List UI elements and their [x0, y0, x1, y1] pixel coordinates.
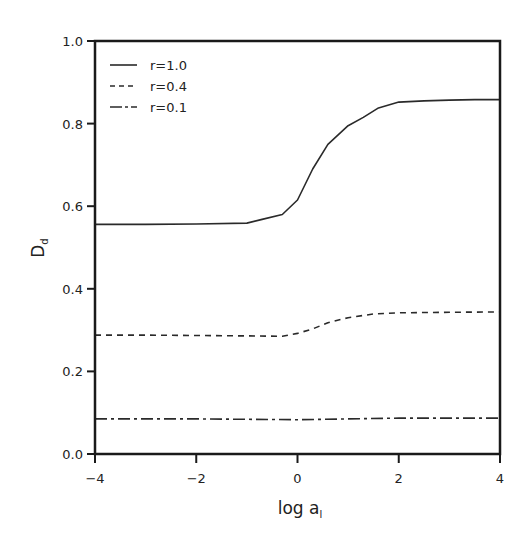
legend-label: r=1.0: [150, 58, 187, 73]
y-axis-label: D: [28, 245, 48, 258]
x-tick-label: 0: [293, 471, 301, 486]
y-axis-subscript: d: [39, 238, 50, 244]
legend: r=1.0r=0.4r=0.1: [110, 58, 187, 115]
y-axis-title: Dd: [28, 238, 50, 257]
y-axis-ticks: 0.00.20.40.60.81.0: [62, 34, 95, 462]
svg-text:Dd: Dd: [28, 238, 50, 257]
x-axis-subscript: l: [319, 509, 322, 520]
series-line-r-0-1: [95, 418, 500, 420]
y-tick-label: 0.0: [62, 447, 83, 462]
x-tick-label: −2: [187, 471, 206, 486]
y-tick-label: 1.0: [62, 34, 83, 49]
plot-lines: [95, 100, 500, 420]
legend-label: r=0.4: [150, 79, 187, 94]
legend-label: r=0.1: [150, 100, 187, 115]
series-line-r-1-0: [95, 100, 500, 225]
y-tick-label: 0.6: [62, 199, 83, 214]
y-tick-label: 0.2: [62, 364, 83, 379]
x-axis-label: log a: [278, 498, 320, 518]
x-tick-label: 4: [496, 471, 504, 486]
x-axis-ticks: −4−2024: [85, 454, 504, 486]
x-axis-title: log al: [278, 498, 323, 520]
chart: 0.00.20.40.60.81.0 −4−2024 r=1.0r=0.4r=0…: [0, 0, 526, 545]
y-tick-label: 0.4: [62, 282, 83, 297]
y-tick-label: 0.8: [62, 117, 83, 132]
series-line-r-0-4: [95, 312, 500, 336]
x-tick-label: −4: [85, 471, 104, 486]
x-tick-label: 2: [395, 471, 403, 486]
